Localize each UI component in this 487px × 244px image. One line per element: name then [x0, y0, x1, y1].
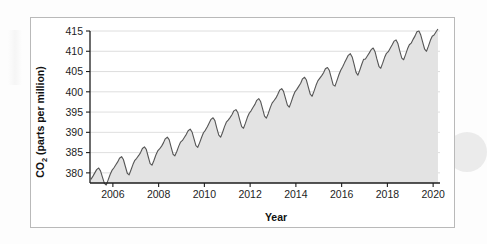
y-tick-label: 380	[65, 167, 83, 179]
x-tick-label: 2006	[101, 188, 125, 200]
y-tick-label: 400	[65, 86, 83, 98]
y-tick-label: 385	[65, 146, 83, 158]
x-tick-label: 2018	[376, 188, 400, 200]
y-axis-tick-labels: 380385390395400405410415	[65, 25, 83, 179]
x-tick-label: 2012	[238, 188, 262, 200]
y-tick-label: 410	[65, 45, 83, 57]
x-tick-label: 2010	[193, 188, 217, 200]
y-tick-label: 415	[65, 25, 83, 37]
x-axis-title: Year	[265, 211, 287, 223]
area-fill-path	[91, 29, 438, 185]
x-tick-label: 2016	[330, 188, 354, 200]
chart-figure-frame: 380385390395400405410415 200620082010201…	[30, 17, 455, 228]
area-fill	[91, 29, 438, 185]
y-tick-label: 405	[65, 65, 83, 77]
x-tick-label: 2020	[421, 188, 445, 200]
co2-area-chart: 380385390395400405410415 200620082010201…	[31, 18, 454, 227]
y-tick-label: 390	[65, 126, 83, 138]
x-tick-label: 2008	[147, 188, 171, 200]
y-axis-title: CO2 (parts per million)	[34, 66, 49, 178]
x-axis-tick-labels: 20062008201020122014201620182020	[101, 188, 445, 200]
y-tick-label: 395	[65, 106, 83, 118]
x-tick-label: 2014	[284, 188, 308, 200]
scan-artifact-left	[8, 30, 22, 85]
